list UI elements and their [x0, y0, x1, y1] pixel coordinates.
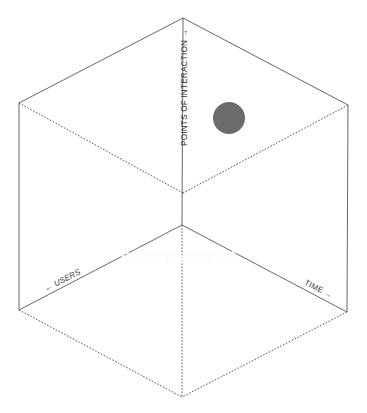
- points-of-interaction-label: POINTS OF INTERACTION →: [180, 29, 189, 146]
- edge-lower-left-bottom-dotted: [19, 310, 182, 397]
- edge-right-vertical: [347, 105, 348, 312]
- edge-top-upper-right: [183, 18, 348, 105]
- edge-upper-right-center-dotted: [183, 105, 348, 193]
- edge-upper-left-center-dotted: [19, 103, 183, 193]
- edge-top-upper-left: [19, 18, 183, 103]
- edge-lower-right-bottom-dotted: [182, 312, 347, 397]
- axis-users-line: [19, 225, 182, 310]
- cube-diagram: POINTS OF INTERACTION → ← USERS TIME → s…: [0, 0, 367, 413]
- axis-time-line: [182, 225, 347, 312]
- interaction-point: [213, 102, 245, 134]
